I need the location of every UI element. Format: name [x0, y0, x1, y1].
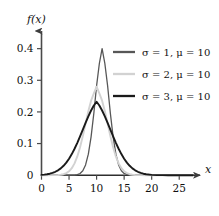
- x-tick-label: 25: [173, 182, 186, 194]
- y-tick-label: 0.2: [17, 106, 34, 118]
- x-tick-label: 10: [90, 182, 103, 194]
- x-axis-title: x: [205, 163, 212, 176]
- legend-label-1: σ = 1, μ = 10: [142, 47, 210, 58]
- x-tick-label: 20: [145, 182, 158, 194]
- x-tick-label: 15: [117, 182, 130, 194]
- y-axis-tick-labels: 00.10.20.30.4: [17, 42, 34, 181]
- chart-canvas: 0510152025 00.10.20.30.4 f(x) x σ = 1, μ…: [0, 0, 219, 216]
- data-series-group: [42, 49, 194, 176]
- y-tick-label: 0.1: [17, 137, 34, 149]
- legend-label-3: σ = 3, μ = 10: [142, 91, 210, 102]
- x-axis-tick-labels: 0510152025: [38, 182, 186, 194]
- y-axis-title: f(x): [26, 13, 46, 26]
- series-curve-sigma-3: [42, 102, 194, 175]
- chart-legend: σ = 1, μ = 10σ = 2, μ = 10σ = 3, μ = 10: [113, 47, 210, 102]
- normal-distribution-chart: 0510152025 00.10.20.30.4 f(x) x σ = 1, μ…: [0, 0, 219, 216]
- x-tick-label: 5: [66, 182, 73, 194]
- y-tick-label: 0: [27, 169, 34, 181]
- y-tick-label: 0.4: [17, 42, 34, 54]
- series-curve-sigma-1: [42, 49, 194, 176]
- x-tick-label: 0: [38, 182, 45, 194]
- legend-label-2: σ = 2, μ = 10: [142, 69, 210, 80]
- y-tick-label: 0.3: [17, 74, 34, 86]
